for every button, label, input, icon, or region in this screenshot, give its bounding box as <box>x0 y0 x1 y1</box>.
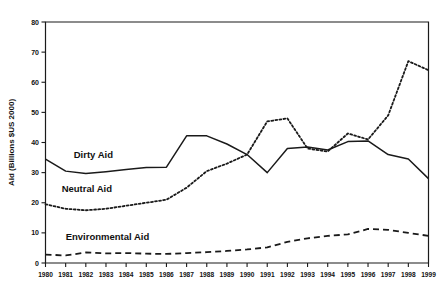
x-tick-label: 1994 <box>320 271 335 278</box>
aid-line-chart: 01020304050607080 1980198119821983198419… <box>0 0 446 299</box>
chart-container: 01020304050607080 1980198119821983198419… <box>0 0 446 299</box>
x-tick-label: 1981 <box>58 271 73 278</box>
x-tick-label: 1999 <box>421 271 436 278</box>
x-tick-label: 1990 <box>240 271 255 278</box>
x-tick-label: 1985 <box>139 271 154 278</box>
x-tick-label: 1998 <box>401 271 416 278</box>
y-tick-label: 20 <box>31 199 39 206</box>
y-tick-label: 50 <box>31 109 39 116</box>
series-label-neutral-aid: Neutral Aid <box>62 183 113 194</box>
x-tick-label: 1983 <box>99 271 114 278</box>
x-tick-label: 1992 <box>280 271 295 278</box>
y-tick-label: 10 <box>31 229 39 236</box>
y-tick-label: 60 <box>31 79 39 86</box>
series-label-environmental-aid: Environmental Aid <box>66 231 150 242</box>
y-tick-label: 70 <box>31 49 39 56</box>
x-tick-label: 1986 <box>159 271 174 278</box>
x-tick-label: 1988 <box>199 271 214 278</box>
x-tick-label: 1987 <box>179 271 194 278</box>
series-label-dirty-aid: Dirty Aid <box>74 149 113 160</box>
x-tick-label: 1991 <box>260 271 275 278</box>
x-tick-label: 1997 <box>381 271 396 278</box>
x-tick-label: 1995 <box>341 271 356 278</box>
x-tick-label: 1982 <box>78 271 93 278</box>
y-tick-label: 40 <box>31 139 39 146</box>
x-tick-label: 1984 <box>119 271 134 278</box>
x-tick-label: 1989 <box>220 271 235 278</box>
y-axis-title: Aid (Billions $US 2000) <box>7 99 16 186</box>
y-tick-label: 30 <box>31 169 39 176</box>
x-tick-label: 1996 <box>361 271 376 278</box>
y-tick-label: 0 <box>35 260 39 267</box>
y-tick-label: 80 <box>31 19 39 26</box>
x-tick-label: 1993 <box>300 271 315 278</box>
chart-background <box>0 0 446 299</box>
x-tick-label: 1980 <box>38 271 53 278</box>
y-axis-title-text: Aid (Billions $US 2000) <box>7 99 16 186</box>
